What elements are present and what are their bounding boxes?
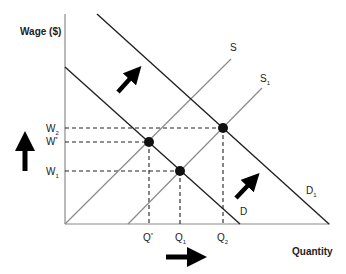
x-axis-title: Quantity (292, 246, 333, 257)
supply-curve-shifted (128, 88, 262, 224)
quantity-label-q1: Q1 (175, 232, 187, 245)
demand-shift-arrow-lower-icon (236, 179, 254, 198)
demand-curve-shifted (97, 14, 329, 224)
demand-shift-arrow-upper-icon (118, 72, 136, 92)
equilibrium-point-w2 (218, 123, 228, 133)
y-axis-title: Wage ($) (20, 26, 61, 37)
supply-label: S (230, 42, 237, 53)
supply-shifted-label: S1 (260, 73, 271, 86)
wage-label-wstar: W* (46, 136, 58, 147)
guide-lines (65, 128, 223, 224)
wage-label-w1: W1 (46, 166, 59, 179)
demand-shifted-label: D1 (306, 185, 317, 198)
wage-label-w2: W2 (46, 123, 59, 136)
equilibrium-point-original (144, 137, 154, 147)
demand-label: D (240, 206, 247, 217)
quantity-label-q2: Q2 (217, 232, 229, 245)
equilibrium-point-w1 (175, 166, 185, 176)
quantity-label-qstar: Q* (143, 232, 154, 243)
labor-market-diagram: Wage ($) Quantity S S1 D D1 W2 W* W1 Q* … (0, 0, 346, 274)
